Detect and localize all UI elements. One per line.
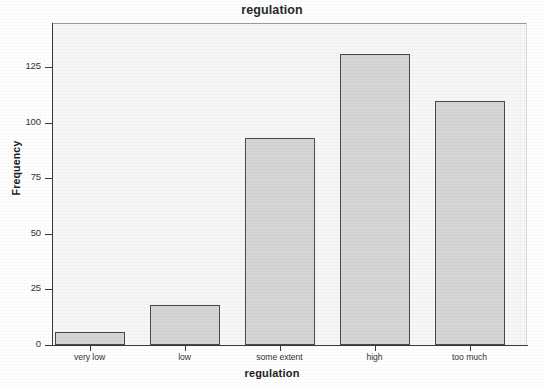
x-tick-mark — [280, 346, 281, 351]
y-tick-mark — [45, 67, 52, 68]
y-tick-label: 125 — [0, 60, 41, 71]
y-tick-label: 0 — [0, 338, 41, 349]
x-tick-mark — [375, 346, 376, 351]
x-tick-mark — [470, 346, 471, 351]
x-tick-mark — [90, 346, 91, 351]
bar — [55, 332, 125, 345]
bar — [340, 54, 410, 345]
y-tick-label: 50 — [0, 227, 41, 238]
x-tick-mark — [185, 346, 186, 351]
y-tick-mark — [45, 289, 52, 290]
y-axis-line — [52, 23, 53, 345]
bar — [245, 138, 315, 345]
y-tick-mark — [45, 123, 52, 124]
y-axis-title: Frequency — [10, 108, 22, 228]
x-tick-label: too much — [410, 352, 530, 362]
y-tick-mark — [45, 345, 52, 346]
chart-title: regulation — [0, 3, 544, 17]
y-tick-mark — [45, 234, 52, 235]
bar-chart: regulation 0255075100125 very lowlowsome… — [0, 0, 544, 386]
x-axis-line — [52, 345, 528, 346]
x-axis-title: regulation — [0, 367, 544, 379]
y-tick-label: 25 — [0, 282, 41, 293]
bar — [150, 305, 220, 345]
y-tick-mark — [45, 178, 52, 179]
bar — [435, 101, 505, 345]
